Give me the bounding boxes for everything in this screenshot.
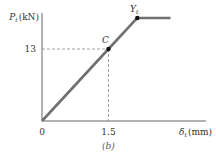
figure-caption: (b) bbox=[102, 141, 115, 151]
annotations: CYt bbox=[102, 4, 139, 45]
y-tick-label: 13 bbox=[25, 44, 37, 54]
series bbox=[42, 18, 171, 121]
annotation-y: Yt bbox=[130, 4, 139, 15]
series-line bbox=[42, 18, 171, 121]
annotation-c: C bbox=[102, 35, 109, 45]
x-axis-label: δt(mm) bbox=[179, 127, 212, 138]
point-c bbox=[106, 47, 110, 51]
x-tick-label: 1.5 bbox=[101, 127, 116, 137]
origin-label: 0 bbox=[39, 127, 45, 137]
axes bbox=[42, 13, 206, 121]
y-axis-label: Pt(kN) bbox=[8, 12, 39, 23]
point-y bbox=[135, 16, 139, 20]
chart: Pt(kN) δt(mm) 0 1.513 CYt (b) bbox=[0, 0, 216, 163]
